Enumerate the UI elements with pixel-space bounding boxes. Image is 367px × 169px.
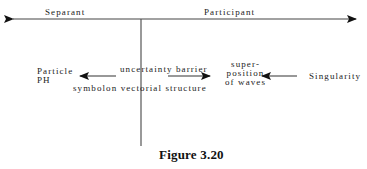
symbolon-label: symbolon vectorial structure [73,83,207,93]
singularity-label: Singularity [309,71,361,81]
participant-label: Participant [204,7,255,17]
superposition-line-3: of waves [225,78,266,87]
superposition-label: super- position of waves [225,60,266,87]
particle-label: Particle PH [37,67,73,85]
figure-caption: Figure 3.20 [159,147,224,163]
particle-line-2: PH [37,76,73,85]
uncertainty-barrier-label: uncertainty barrier [120,64,208,74]
separant-label: Separant [45,7,85,17]
